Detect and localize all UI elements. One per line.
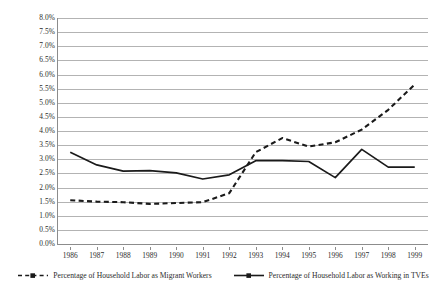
legend-item-migrant-workers: Percentage of Household Labor as Migrant… bbox=[18, 271, 211, 280]
y-axis-tick-label: 2.5% bbox=[3, 170, 55, 177]
x-axis-tick-mark bbox=[309, 247, 310, 250]
y-axis-tick-label: 1.0% bbox=[3, 212, 55, 219]
x-axis-tick-label: 1999 bbox=[407, 252, 422, 259]
y-axis-tick-label: 6.5% bbox=[3, 57, 55, 64]
y-axis-tick-label: 6.0% bbox=[3, 71, 55, 78]
x-axis-tick-mark bbox=[415, 247, 416, 250]
x-axis-tick-label: 1994 bbox=[275, 252, 290, 259]
x-axis-tick-mark bbox=[97, 247, 98, 250]
series-layer bbox=[57, 18, 428, 244]
series-line-1 bbox=[70, 84, 415, 203]
y-axis-tick-labels: 0.0%0.5%1.0%1.5%2.0%2.5%3.0%3.5%4.0%4.5%… bbox=[0, 18, 55, 244]
x-axis-tick-label: 1993 bbox=[248, 252, 263, 259]
x-axis-tick-labels: 1986198719881989199019911992199319941995… bbox=[57, 247, 428, 261]
y-axis-tick-label: 1.5% bbox=[3, 198, 55, 205]
x-axis-tick-mark bbox=[282, 247, 283, 250]
y-axis-tick-label: 5.0% bbox=[3, 99, 55, 106]
legend-label-tves: Percentage of Household Labor as Working… bbox=[269, 272, 429, 280]
x-axis-tick-label: 1986 bbox=[63, 252, 78, 259]
y-axis-tick-label: 0.5% bbox=[3, 226, 55, 233]
y-axis-tick-label: 4.5% bbox=[3, 113, 55, 120]
x-axis-tick-label: 1995 bbox=[301, 252, 316, 259]
x-axis-tick-mark bbox=[256, 247, 257, 250]
x-axis-tick-mark bbox=[362, 247, 363, 250]
x-axis-tick-label: 1992 bbox=[222, 252, 237, 259]
x-axis-tick-label: 1998 bbox=[381, 252, 396, 259]
legend-label-migrant-workers: Percentage of Household Labor as Migrant… bbox=[53, 272, 211, 280]
x-axis-tick-mark bbox=[229, 247, 230, 250]
y-axis-tick-label: 4.0% bbox=[3, 127, 55, 134]
y-axis-tick-label: 3.5% bbox=[3, 141, 55, 148]
x-axis-tick-label: 1991 bbox=[195, 252, 210, 259]
x-axis-tick-label: 1988 bbox=[116, 252, 131, 259]
x-axis-tick-mark bbox=[203, 247, 204, 250]
y-axis-tick-label: 5.5% bbox=[3, 85, 55, 92]
x-axis-tick-label: 1997 bbox=[354, 252, 369, 259]
x-axis-tick-label: 1996 bbox=[328, 252, 343, 259]
x-axis-tick-mark bbox=[70, 247, 71, 250]
series-line-2 bbox=[70, 149, 415, 179]
dashed-line-icon bbox=[18, 271, 48, 280]
x-axis-tick-label: 1987 bbox=[89, 252, 104, 259]
x-axis-tick-label: 1989 bbox=[142, 252, 157, 259]
y-axis-tick-label: 7.0% bbox=[3, 43, 55, 50]
y-axis-tick-label: 7.5% bbox=[3, 28, 55, 35]
x-axis-tick-mark bbox=[335, 247, 336, 250]
y-axis-tick-label: 3.0% bbox=[3, 156, 55, 163]
x-axis-tick-label: 1990 bbox=[169, 252, 184, 259]
chart-legend: Percentage of Household Labor as Migrant… bbox=[0, 271, 447, 280]
y-axis-tick-label: 2.0% bbox=[3, 184, 55, 191]
x-axis-tick-mark bbox=[176, 247, 177, 250]
x-axis-tick-mark bbox=[388, 247, 389, 250]
x-axis-tick-mark bbox=[123, 247, 124, 250]
solid-line-icon bbox=[234, 271, 264, 280]
line-chart: 0.0%0.5%1.0%1.5%2.0%2.5%3.0%3.5%4.0%4.5%… bbox=[0, 0, 447, 294]
y-axis-tick-label: 0.0% bbox=[3, 240, 55, 247]
legend-item-tves: Percentage of Household Labor as Working… bbox=[234, 271, 429, 280]
plot-area bbox=[57, 18, 428, 244]
y-axis-tick-label: 8.0% bbox=[3, 14, 55, 21]
gridline bbox=[57, 244, 428, 245]
x-axis-tick-mark bbox=[150, 247, 151, 250]
